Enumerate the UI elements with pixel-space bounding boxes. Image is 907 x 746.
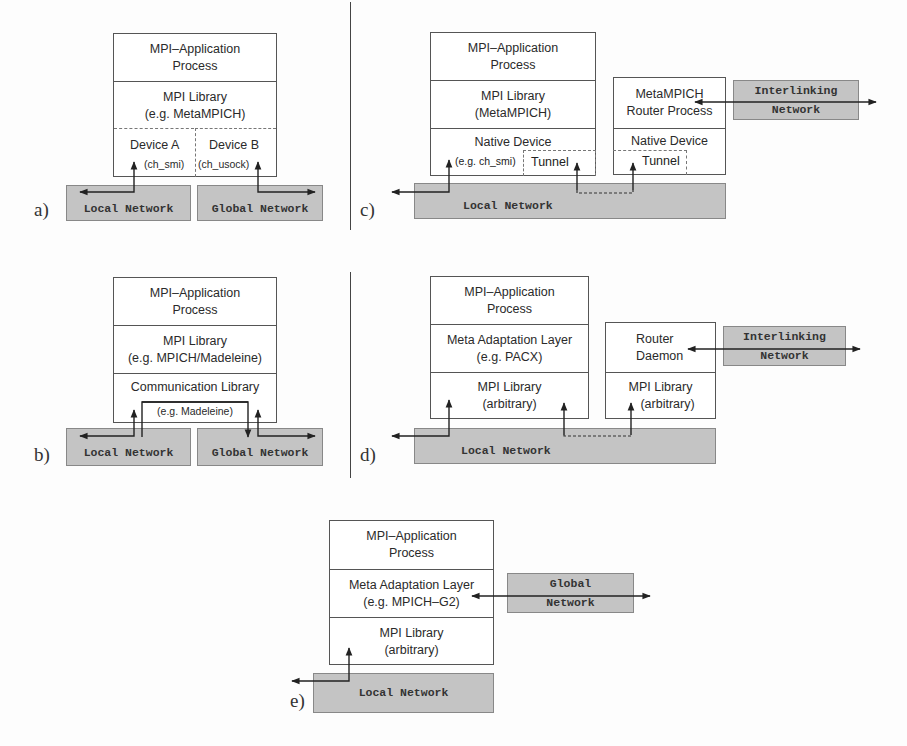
arrow-madeleine-local: [142, 402, 248, 437]
arrow-global-to-device-b: [258, 162, 315, 192]
router-dashed-path-d: [564, 435, 631, 436]
connection-arrows: [0, 0, 907, 746]
figure-caption-clipped: [0, 738, 907, 746]
arrow-local-to-device-a: [80, 162, 134, 192]
arrow-local-to-native-device: [392, 160, 449, 192]
arrow-global-to-comm-lib: [258, 410, 315, 436]
arrow-local-to-mpi-lib: [392, 400, 449, 436]
arrow-local-to-comm-lib: [80, 410, 134, 436]
arrow-local-to-mpi-lib: [292, 648, 349, 681]
tunnel-dashed-path-c: [577, 190, 633, 193]
